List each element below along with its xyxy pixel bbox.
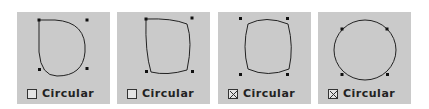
- control-point: [38, 68, 41, 71]
- curve-preview-4: [318, 12, 411, 82]
- shape-panel-2: Circular: [117, 12, 210, 104]
- control-point: [38, 19, 41, 22]
- circular-checkbox-row-2[interactable]: Circular: [127, 87, 194, 100]
- checkbox-checked[interactable]: [228, 89, 238, 99]
- checkbox-unchecked[interactable]: [27, 89, 37, 99]
- circular-label: Circular: [142, 87, 194, 100]
- curve-preview-2: [117, 12, 210, 82]
- circular-label: Circular: [42, 87, 94, 100]
- checkbox-unchecked[interactable]: [127, 89, 137, 99]
- circular-checkbox-row-3[interactable]: Circular: [228, 87, 295, 100]
- curve-preview-1: [17, 12, 110, 82]
- x-mark-icon: [229, 90, 239, 100]
- circular-label: Circular: [243, 87, 295, 100]
- x-mark-icon: [329, 90, 339, 100]
- circular-checkbox-row-1[interactable]: Circular: [27, 87, 94, 100]
- shape-panel-4: Circular: [318, 12, 411, 104]
- curve-preview-3: [218, 12, 311, 82]
- circular-label: Circular: [343, 87, 395, 100]
- checkbox-checked[interactable]: [328, 89, 338, 99]
- circular-checkbox-row-4[interactable]: Circular: [328, 87, 395, 100]
- control-point: [86, 67, 89, 70]
- shape-panel-1: Circular: [17, 12, 110, 104]
- shape-panel-3: Circular: [218, 12, 311, 104]
- control-point: [86, 19, 89, 22]
